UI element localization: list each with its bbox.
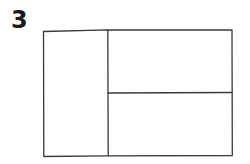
bottom-right-panel bbox=[109, 94, 231, 155]
layout-sketch bbox=[0, 0, 250, 164]
horizontal-divider bbox=[108, 93, 232, 94]
top-right-panel bbox=[109, 31, 231, 92]
left-panel bbox=[44, 32, 107, 155]
